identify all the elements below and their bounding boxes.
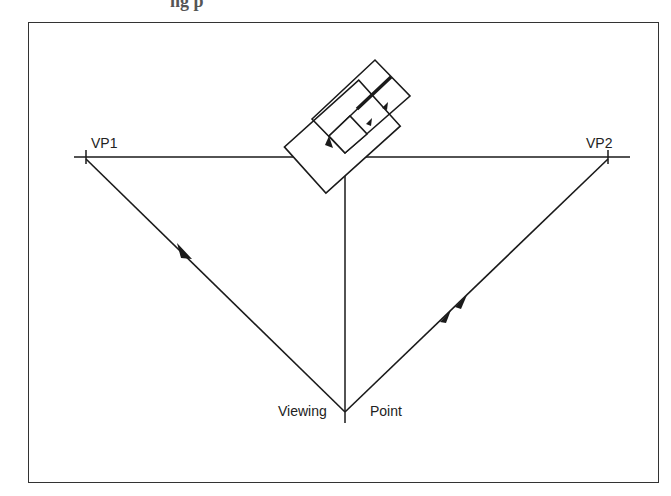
vp1-label: VP1 bbox=[91, 135, 117, 151]
vp2-sightline bbox=[345, 159, 608, 412]
arrow-down-right-icon bbox=[177, 243, 192, 259]
perspective-diagram bbox=[0, 0, 671, 496]
arrow-up-right-icon bbox=[455, 295, 467, 309]
point-label: Point bbox=[370, 403, 402, 419]
vp1-sightline bbox=[86, 159, 345, 412]
viewing-label: Viewing bbox=[278, 403, 327, 419]
vp2-label: VP2 bbox=[586, 135, 612, 151]
arrow-up-right-icon bbox=[440, 310, 451, 323]
